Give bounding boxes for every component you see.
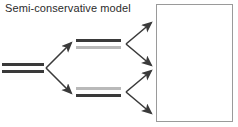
arrow-fork-2-down (126, 44, 151, 65)
semi-conservative-model-figure: Semi-conservative model (0, 0, 238, 127)
arrow-fork-1-down (46, 68, 71, 93)
arrow-fork-1-up (46, 43, 71, 68)
arrow-fork-2-up (126, 23, 151, 44)
arrow-fork-3-down (126, 92, 151, 113)
arrow-fork-3-up (126, 71, 151, 92)
second-generation-result-panel (156, 4, 233, 122)
